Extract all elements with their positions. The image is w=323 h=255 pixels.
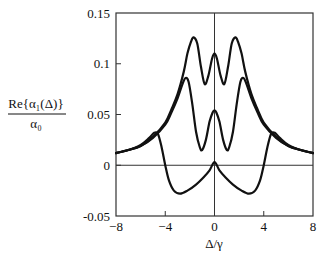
y-axis: -0.0500.050.10.15	[83, 6, 121, 224]
plot-area	[116, 13, 313, 216]
line-chart: −8−4048 -0.0500.050.10.15 Δ/γ Re{α₁(Δ)} …	[0, 0, 323, 255]
y-axis-title-denominator: α₀	[30, 116, 41, 131]
y-tick-label: 0.05	[87, 107, 110, 122]
x-axis-title: Δ/γ	[205, 236, 223, 251]
x-tick-label: 4	[261, 219, 268, 234]
y-axis-title-numerator: Re{α₁(Δ)}	[8, 96, 63, 111]
x-tick-label: −8	[109, 219, 123, 234]
x-tick-label: 8	[310, 219, 317, 234]
x-axis: −8−4048	[109, 211, 316, 234]
y-tick-label: 0.15	[87, 6, 110, 21]
x-tick-label: −4	[158, 219, 172, 234]
y-tick-label: 0.1	[94, 56, 110, 71]
y-tick-label: 0	[104, 158, 111, 173]
x-tick-label: 0	[211, 219, 218, 234]
y-axis-title: Re{α₁(Δ)} α₀	[8, 96, 66, 131]
y-tick-label: -0.05	[83, 209, 110, 224]
